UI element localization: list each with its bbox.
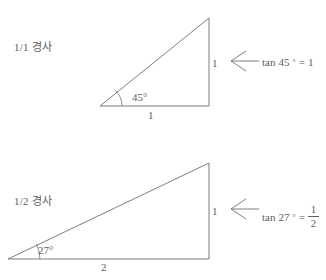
- height-label-1-1: 1: [212, 58, 218, 69]
- slope-diagram-figure: 1/1 경사 45° 1 1 tan 45° = 1 1/2 경사 27° 2 …: [0, 0, 326, 280]
- equation-1-angle: 45: [278, 57, 289, 68]
- angle-label-27: 27°: [38, 245, 53, 256]
- triangle-1-1-outline: [100, 18, 209, 106]
- long-left-arrow-icon-1: [231, 51, 259, 71]
- equation-1-equals: =: [299, 57, 305, 68]
- slope-label-1-1: 1/1 경사: [14, 42, 52, 53]
- height-label-1-2: 1: [212, 206, 218, 217]
- triangle-1-1: [100, 18, 209, 106]
- base-label-1-1: 1: [148, 110, 154, 121]
- base-label-1-2: 2: [101, 262, 107, 273]
- fraction-one-half: 1 2: [308, 204, 319, 229]
- equation-2-angle: 27: [278, 212, 289, 223]
- equation-2-equals: =: [299, 212, 305, 223]
- equation-1-function: tan: [262, 57, 275, 68]
- fraction-denominator: 2: [309, 217, 319, 229]
- angle-label-45: 45°: [132, 92, 147, 103]
- degree-symbol-2: °: [292, 214, 295, 222]
- long-left-arrow-icon-2: [231, 199, 259, 219]
- equation-tan-45: tan 45° = 1: [262, 57, 313, 68]
- slope-label-1-2: 1/2 경사: [14, 196, 52, 207]
- degree-symbol-1: °: [292, 59, 295, 67]
- equation-1-result: 1: [308, 57, 314, 68]
- equation-2-function: tan: [262, 212, 275, 223]
- equation-tan-27: tan 27° = 1 2: [262, 205, 319, 230]
- fraction-numerator: 1: [309, 204, 319, 216]
